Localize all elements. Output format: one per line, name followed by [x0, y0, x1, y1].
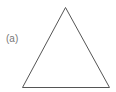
- triangle-diagram: [0, 0, 116, 92]
- triangle-shape: [23, 8, 110, 88]
